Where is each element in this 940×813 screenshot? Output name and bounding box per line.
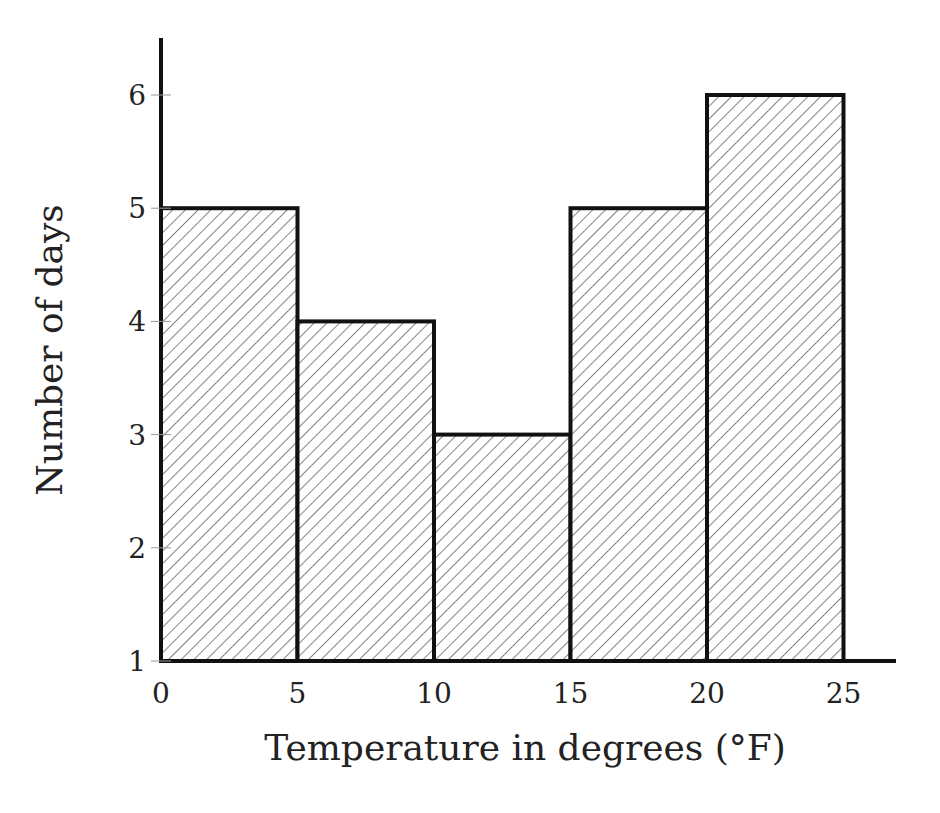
bar (161, 208, 298, 661)
bar (298, 321, 435, 661)
x-tick-label: 0 (152, 677, 170, 710)
y-tick-label: 2 (128, 532, 146, 565)
y-tick-label: 5 (128, 192, 146, 225)
y-tick-label: 4 (128, 305, 146, 338)
x-tick-label: 5 (289, 677, 307, 710)
x-tick-label: 15 (553, 677, 589, 710)
y-tick-label: 1 (128, 645, 146, 678)
histogram-chart: 123456 0510152025 Temperature in degrees… (0, 0, 940, 813)
y-tick-label: 6 (128, 79, 146, 112)
x-tick-label: 10 (416, 677, 452, 710)
x-tick-label: 20 (689, 677, 725, 710)
y-axis-label: Number of days (29, 204, 70, 496)
bars (161, 95, 844, 661)
x-axis-ticks: 0510152025 (152, 677, 861, 710)
x-tick-label: 25 (826, 677, 862, 710)
bar (707, 95, 844, 661)
y-tick-label: 3 (128, 419, 146, 452)
bar (434, 435, 571, 661)
bar (571, 208, 708, 661)
x-axis-label: Temperature in degrees (°F) (264, 727, 786, 768)
